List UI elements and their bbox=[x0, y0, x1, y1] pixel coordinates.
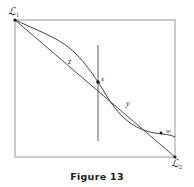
label-line-1: ℒ1 bbox=[8, 6, 19, 17]
label-y: y bbox=[126, 100, 130, 108]
label-z: z bbox=[68, 58, 71, 66]
point-L1-dot bbox=[13, 18, 16, 21]
figure-caption: Figure 13 bbox=[70, 171, 124, 182]
figure-13-container: ℒ1 ℒ2 z x y w Figure 13 bbox=[0, 0, 194, 187]
figure-drawing bbox=[0, 0, 194, 187]
label-x: x bbox=[101, 76, 104, 83]
point-w-dot bbox=[160, 132, 163, 135]
point-x-dot bbox=[96, 80, 100, 84]
s-curve bbox=[15, 20, 175, 137]
diagonal-line bbox=[15, 20, 175, 157]
figure-caption-wrap: Figure 13 bbox=[0, 166, 194, 184]
label-w: w bbox=[166, 128, 171, 135]
